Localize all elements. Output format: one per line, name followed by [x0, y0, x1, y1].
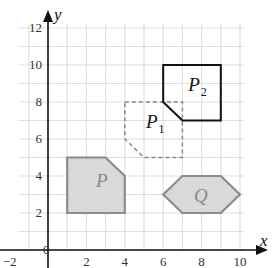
- x-tick-label: −2: [3, 254, 17, 268]
- x-tick-label: 4: [122, 254, 129, 268]
- grid-lines: [19, 24, 244, 250]
- y-tick-label: 10: [29, 57, 42, 72]
- shape-label-p: P: [95, 170, 108, 191]
- coordinate-diagram: x y 0 −224681024681012 PP1P2Q: [0, 0, 272, 268]
- y-tick-label: 6: [36, 131, 43, 146]
- y-axis-arrow-icon: [43, 10, 53, 22]
- x-tick-label: 10: [234, 254, 247, 268]
- y-axis-label: y: [52, 5, 62, 24]
- shape-label-p1: P1: [145, 111, 165, 136]
- shape-label-q: Q: [194, 185, 208, 206]
- y-tick-label: 4: [36, 168, 43, 183]
- origin-label: 0: [43, 242, 50, 257]
- y-tick-label: 8: [36, 94, 43, 109]
- y-tick-label: 2: [36, 205, 43, 220]
- shape-label-p2: P2: [187, 74, 207, 99]
- y-tick-label: 12: [29, 20, 42, 35]
- x-tick-label: 8: [198, 254, 205, 268]
- x-axis-label: x: [259, 231, 268, 250]
- x-tick-label: 2: [83, 254, 90, 268]
- x-tick-label: 6: [160, 254, 167, 268]
